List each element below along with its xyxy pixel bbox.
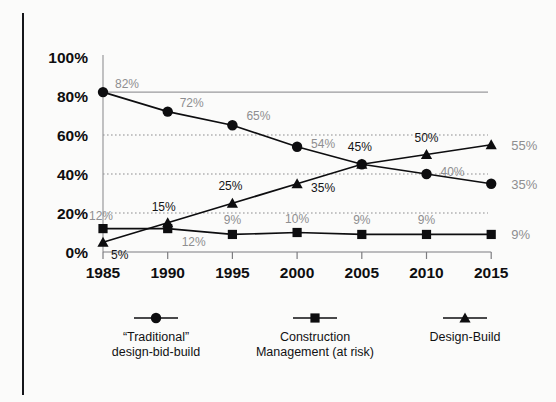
data-label: 12%	[89, 209, 113, 223]
data-label: 82%	[115, 77, 139, 91]
square-marker	[310, 313, 319, 322]
data-label: 9%	[353, 213, 371, 227]
legend-label: “Traditional”	[123, 330, 189, 344]
legend-label: Management (at risk)	[256, 345, 374, 359]
circle-marker	[151, 313, 161, 323]
data-label: 54%	[311, 137, 335, 151]
legend-label: Design-Build	[430, 330, 501, 344]
circle-marker	[98, 87, 108, 97]
end-labels-group: 35%9%55%	[511, 138, 537, 243]
series-end-label: 9%	[511, 227, 530, 242]
data-label: 35%	[311, 181, 335, 195]
y-axis-label: 100%	[48, 49, 88, 66]
y-axis-label: 60%	[57, 127, 88, 144]
data-label: 9%	[224, 213, 242, 227]
y-axis-label: 80%	[57, 88, 88, 105]
y-axis-label: 20%	[57, 205, 88, 222]
data-label: 72%	[180, 96, 204, 110]
line-chart-plot: 0%20%40%60%80%100% 198519901995200020052…	[0, 0, 556, 402]
legend-label: Construction	[280, 330, 350, 344]
data-label: 12%	[182, 235, 206, 249]
circle-marker	[163, 106, 173, 116]
x-axis-label: 1990	[150, 264, 184, 281]
data-label: 40%	[441, 165, 465, 179]
circle-marker	[421, 169, 431, 179]
circle-marker	[227, 120, 237, 130]
data-label: 9%	[418, 213, 436, 227]
circle-marker	[292, 142, 302, 152]
circle-marker	[486, 179, 496, 189]
series-line-triangle	[103, 145, 491, 243]
square-marker	[487, 230, 496, 239]
square-marker	[422, 230, 431, 239]
x-axis-label: 1995	[215, 264, 250, 281]
data-label: 25%	[218, 179, 242, 193]
y-axis-label: 0%	[66, 244, 89, 261]
legend-label: design-bid-build	[112, 345, 200, 359]
chart-figure: 0%20%40%60%80%100% 198519901995200020052…	[0, 0, 556, 402]
data-label: 15%	[152, 200, 176, 214]
data-label: 5%	[111, 248, 129, 262]
square-marker	[228, 230, 237, 239]
series-end-label: 55%	[511, 138, 537, 153]
data-label: 10%	[285, 212, 309, 226]
series-end-label: 35%	[511, 177, 537, 192]
x-axis-label: 2015	[474, 264, 509, 281]
x-axis-label: 2005	[345, 264, 380, 281]
x-axis-label: 2000	[280, 264, 314, 281]
data-label: 65%	[246, 109, 270, 123]
legend-group: “Traditional”design-bid-buildConstructio…	[112, 312, 501, 359]
square-marker	[357, 230, 366, 239]
square-marker	[98, 224, 107, 233]
x-axis-label: 1985	[86, 264, 121, 281]
square-marker	[293, 228, 302, 237]
data-label: 50%	[414, 131, 438, 145]
x-axis-label: 2010	[409, 264, 443, 281]
x-axis-labels-group: 1985199019952000200520102015	[86, 264, 509, 281]
y-axis-labels-group: 0%20%40%60%80%100%	[48, 49, 88, 261]
data-label: 45%	[348, 140, 372, 154]
triangle-marker	[486, 139, 497, 149]
y-axis-label: 40%	[57, 166, 88, 183]
